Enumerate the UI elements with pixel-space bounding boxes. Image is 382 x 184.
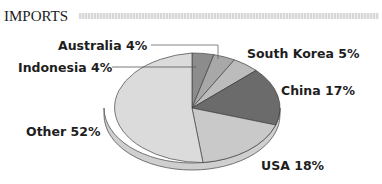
label-indonesia: Indonesia 4% <box>18 60 112 75</box>
label-australia: Australia 4% <box>58 38 147 53</box>
label-south-korea: South Korea 5% <box>247 46 359 61</box>
label-other: Other 52% <box>26 124 100 139</box>
label-usa: USA 18% <box>261 158 324 173</box>
label-china: China 17% <box>281 83 355 98</box>
